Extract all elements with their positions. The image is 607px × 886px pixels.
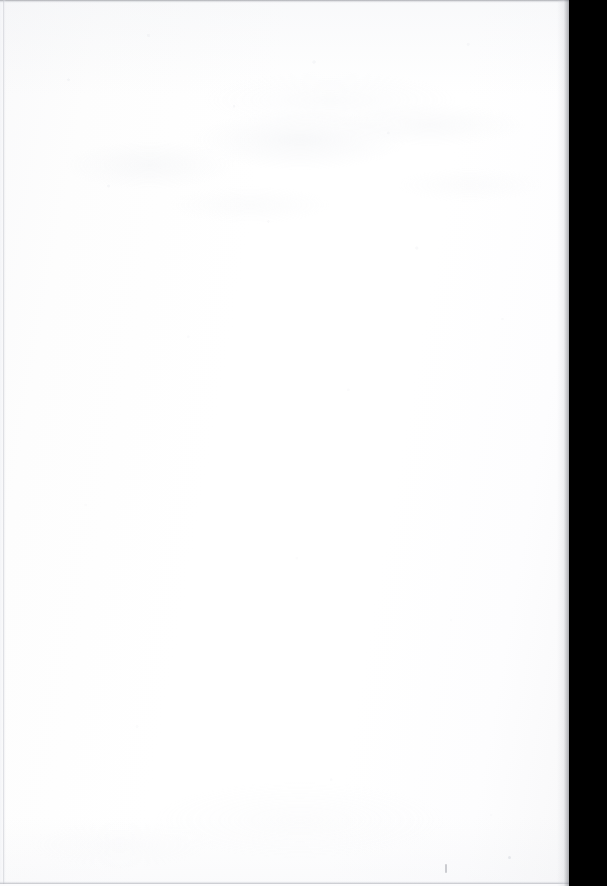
page-left-edge (3, 0, 6, 886)
ink-speck (445, 864, 447, 873)
scanned-page (0, 0, 607, 886)
paper-surface (0, 0, 571, 886)
scanner-gutter-band (569, 0, 607, 886)
ink-speck-secondary (508, 856, 511, 859)
page-top-edge (0, 0, 571, 3)
